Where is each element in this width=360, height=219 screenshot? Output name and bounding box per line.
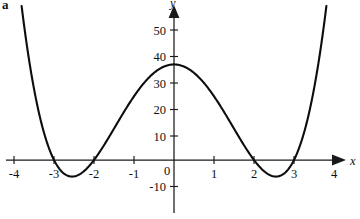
x-tick-label: 4 [331,167,338,181]
x-axis-label: x [349,154,356,168]
x-tick-label: -3 [49,167,59,181]
y-tick-label: 10 [154,130,167,144]
origin-label: 0 [164,164,170,178]
x-tick-label: 3 [291,167,297,181]
x-tick-label: 2 [251,167,257,181]
y-tick-label: 50 [154,24,167,38]
x-tick-label: -1 [129,167,139,181]
y-tick-label: -10 [149,180,166,194]
figure-panel: a x y -4 -3 -2 -1 0 1 2 3 [0,0,360,219]
y-axis-label: y [168,0,176,10]
y-tick-label: 30 [154,77,167,91]
panel-label: a [2,0,9,12]
y-tick-label: 20 [154,103,167,117]
x-tick-label: -4 [9,167,20,181]
x-tick-label: 1 [211,167,217,181]
function-plot: a x y -4 -3 -2 -1 0 1 2 3 [0,0,360,219]
y-tick-label: 40 [154,50,167,64]
x-tick-label: -2 [89,167,99,181]
